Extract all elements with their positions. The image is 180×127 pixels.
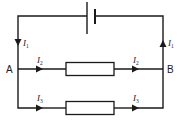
battery-icon [87,2,95,34]
current-label-lower-out: I3 [132,93,139,104]
arrow-right-icon [132,105,139,112]
circuit-diagram: A B I1 I1 I2 I2 I3 I3 [0,0,180,127]
current-label-left-main: I1 [22,38,29,49]
current-label-upper-out: I2 [132,55,139,66]
current-label-lower-in: I3 [36,93,43,104]
arrow-right-icon [36,66,43,73]
resistor-lower-icon [66,102,114,115]
arrow-up-icon [160,40,167,47]
node-label-b: B [167,64,174,75]
current-label-right-main: I1 [167,38,174,49]
current-label-upper-in: I2 [36,55,43,66]
lower-branch [40,102,136,115]
arrow-down-icon [15,39,22,46]
node-label-a: A [6,64,13,75]
arrow-right-icon [36,105,43,112]
resistor-upper-icon [66,63,114,76]
arrow-right-icon [132,66,139,73]
